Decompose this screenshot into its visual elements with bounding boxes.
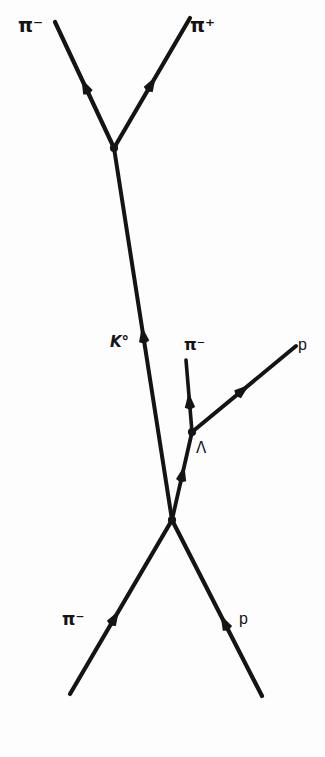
label-k-zero: K° <box>110 335 129 350</box>
arrowhead-lambda-track <box>176 465 186 482</box>
arrowhead-pi-minus-from-kaon <box>82 79 93 95</box>
diagram-svg <box>0 0 325 757</box>
arrowhead-proton-target-track <box>221 615 232 631</box>
lambda-decay-vertex <box>188 428 196 436</box>
label-proton-bottom: p <box>239 611 248 627</box>
track-layer <box>55 18 296 696</box>
label-lambda: Λ <box>196 441 206 456</box>
label-proton-right: p <box>298 337 307 353</box>
arrowhead-proton-from-lambda <box>234 385 249 399</box>
label-pi-plus-top: π⁺ <box>190 16 215 35</box>
primary-interaction-vertex <box>168 516 176 524</box>
label-pi-minus-top: π⁻ <box>18 16 43 35</box>
label-pi-minus-bottom: π⁻ <box>62 611 84 628</box>
particle-diagram-canvas: π⁻ π⁺ K° π⁻ p Λ π⁻ p <box>0 0 325 757</box>
track-pi-minus-beam <box>70 520 172 694</box>
label-pi-minus-middle: π⁻ <box>184 337 205 353</box>
arrowhead-pi-plus-from-kaon <box>144 77 156 93</box>
track-proton-target-track <box>172 520 262 696</box>
K-zero-decay-vertex <box>110 144 118 152</box>
arrowhead-pi-minus-beam <box>107 610 119 626</box>
